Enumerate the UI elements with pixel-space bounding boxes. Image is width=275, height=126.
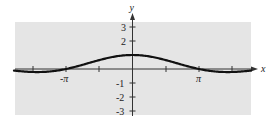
y-tick-label-neg3: -3 bbox=[116, 106, 124, 117]
y-tick-label-3: 3 bbox=[121, 22, 126, 33]
y-axis-label: y bbox=[129, 2, 135, 13]
x-tick-label-neg-pi: -π bbox=[60, 73, 69, 84]
y-tick-label-neg1: -1 bbox=[116, 78, 124, 89]
y-tick-label-neg2: -2 bbox=[116, 92, 124, 103]
x-axis-label: x bbox=[260, 63, 266, 74]
y-tick-label-2: 2 bbox=[121, 36, 126, 47]
y-axis-arrow-icon bbox=[130, 13, 135, 20]
chart: x y -π π 3 2 -1 -2 -3 bbox=[0, 0, 275, 126]
